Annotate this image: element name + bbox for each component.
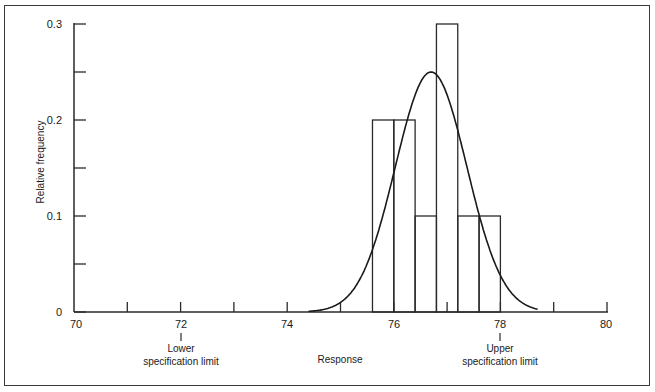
axes (74, 23, 608, 312)
histogram-bar (415, 216, 436, 312)
x-tick-label: 78 (494, 318, 506, 330)
usl-label-line1: Upper (486, 343, 514, 354)
histogram-chart: 0.3 0.2 0.1 0 70 72 74 76 78 80 Lower sp… (0, 0, 655, 392)
x-tick-label: 80 (600, 318, 612, 330)
y-axis-title: Relative frequency (35, 121, 46, 204)
y-tick-label: 0.3 (47, 18, 62, 30)
y-tick-label: 0 (56, 306, 62, 318)
usl-label-line2: specification limit (462, 356, 538, 367)
histogram-bar (479, 216, 500, 312)
x-tick-label: 74 (281, 318, 293, 330)
y-tick-label: 0.1 (47, 210, 62, 222)
x-tick-label: 76 (388, 318, 400, 330)
histogram-bars (372, 24, 500, 312)
histogram-bar (436, 24, 457, 312)
y-ticks (74, 24, 86, 312)
histogram-bar (394, 120, 415, 312)
histogram-bar (458, 216, 479, 312)
lsl-label-line1: Lower (167, 343, 195, 354)
x-tick-label: 70 (70, 318, 82, 330)
x-tick-label: 72 (175, 318, 187, 330)
lsl-label-line2: specification limit (143, 356, 219, 367)
normal-curve (309, 72, 538, 311)
x-ticks (127, 302, 607, 312)
y-tick-label: 0.2 (47, 114, 62, 126)
x-axis-title: Response (317, 354, 362, 365)
